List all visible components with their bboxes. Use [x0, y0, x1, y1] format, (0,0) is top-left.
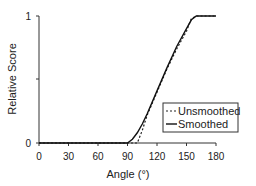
legend-smoothed-label: Smoothed: [178, 118, 228, 130]
x-tick-label: 0: [36, 151, 42, 162]
x-tick-label: 120: [149, 151, 166, 162]
chart: 1 0 0 30 60 90 120 150 180 Angle (°) Rel…: [0, 0, 256, 186]
y-axis-title: Relative Score: [6, 43, 18, 115]
x-tick-label: 180: [208, 151, 225, 162]
x-tick-label: 90: [122, 151, 134, 162]
x-tick-label: 30: [63, 151, 75, 162]
x-axis-title: Angle (°): [107, 168, 150, 180]
y-tick-label-0: 0: [25, 138, 31, 149]
legend-unsmoothed-label: Unsmoothed: [178, 105, 240, 117]
x-tick-label: 60: [92, 151, 104, 162]
x-tick-label: 150: [178, 151, 195, 162]
y-tick-label-1: 1: [25, 11, 31, 22]
legend: Unsmoothed Smoothed: [163, 103, 240, 132]
